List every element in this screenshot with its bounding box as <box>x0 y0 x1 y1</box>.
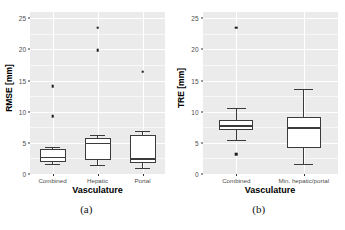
outlier-point <box>51 85 54 88</box>
y-axis-title-b-text: TRE [mm] <box>177 67 187 107</box>
x-tick-label: Min. hepatic/portal <box>278 177 329 184</box>
whisker-cap-lower <box>227 140 246 141</box>
median-line <box>219 125 253 126</box>
x-axis-title-b: Vasculature <box>203 185 338 195</box>
whisker-upper <box>236 108 237 120</box>
y-tick-label: 0 <box>22 171 26 178</box>
y-tick-label: 10 <box>19 108 26 115</box>
x-tick-label: Combined <box>222 177 250 184</box>
y-tick-label: 5 <box>22 139 26 146</box>
panel-b: TRE [mm] 0510152025 CombinedMin. hepatic… <box>173 0 345 230</box>
whisker-lower <box>303 148 304 164</box>
outlier-point <box>141 71 144 74</box>
box-iqr <box>85 138 111 160</box>
y-tick-label: 15 <box>19 77 26 84</box>
x-tick-label: Combined <box>38 177 66 184</box>
median-line <box>287 127 321 128</box>
y-tick-label: 10 <box>191 108 198 115</box>
x-tick-label: Portal <box>134 177 150 184</box>
outlier-point <box>235 26 238 29</box>
plot-area-a <box>30 12 165 174</box>
whisker-cap-upper <box>45 147 60 148</box>
whisker-cap-upper <box>90 135 105 136</box>
whisker-cap-upper <box>227 108 246 109</box>
outlier-point <box>96 49 99 52</box>
x-axis-title-a: Vasculature <box>30 185 165 195</box>
box-iqr <box>40 149 66 161</box>
subfigure-caption-b: (b) <box>173 203 345 215</box>
boxplot-combined <box>219 12 253 174</box>
plot-area-b <box>203 12 338 174</box>
outlier-point <box>96 26 99 29</box>
y-tick-label: 25 <box>19 15 26 22</box>
whisker-cap-lower <box>90 165 105 166</box>
panel-a: RMSE [mm] 0510152025 CombinedHepaticPort… <box>0 0 173 230</box>
whisker-cap-lower <box>135 168 150 169</box>
whisker-cap-lower <box>45 164 60 165</box>
whisker-cap-upper <box>135 131 150 132</box>
x-tick-mark <box>304 174 305 176</box>
y-tick-label: 15 <box>191 77 198 84</box>
y-tick-label: 20 <box>19 46 26 53</box>
y-tick-label: 5 <box>195 139 199 146</box>
box-iqr <box>287 117 321 148</box>
whisker-upper <box>303 89 304 118</box>
boxplot-combined <box>40 12 66 174</box>
whisker-cap-lower <box>294 164 313 165</box>
outlier-point <box>235 153 238 156</box>
y-tick-label: 0 <box>195 171 199 178</box>
y-axis-ticks-a: 0510152025 <box>14 12 28 174</box>
median-line <box>130 158 156 159</box>
median-line <box>85 143 111 144</box>
boxplot-min-hepatic-portal <box>287 12 321 174</box>
x-tick-label: Hepatic <box>87 177 108 184</box>
y-axis-ticks-b: 0510152025 <box>187 12 201 174</box>
x-tick-mark <box>143 174 144 176</box>
y-tick-label: 25 <box>191 15 198 22</box>
boxplot-portal <box>130 12 156 174</box>
boxplot-hepatic <box>85 12 111 174</box>
y-tick-label: 20 <box>191 46 198 53</box>
x-tick-mark <box>98 174 99 176</box>
whisker-cap-upper <box>294 89 313 90</box>
x-tick-mark <box>53 174 54 176</box>
median-line <box>40 157 66 158</box>
boxplot-figure: RMSE [mm] 0510152025 CombinedHepaticPort… <box>0 0 345 230</box>
y-axis-title-a-text: RMSE [mm] <box>4 64 14 112</box>
subfigure-caption-a: (a) <box>0 203 173 215</box>
x-tick-mark <box>236 174 237 176</box>
outlier-point <box>51 115 54 118</box>
whisker-lower <box>236 130 237 139</box>
